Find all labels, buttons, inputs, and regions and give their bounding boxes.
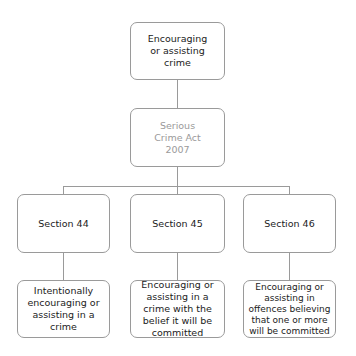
connector-branch-to-section-46 (289, 186, 290, 194)
root-node-label: Encouraging or assisting crime (134, 33, 221, 69)
connector-section-46-to-description (289, 253, 290, 280)
act-node: Serious Crime Act 2007 (130, 108, 225, 167)
section-45-label: Section 45 (152, 218, 202, 230)
root-node: Encouraging or assisting crime (130, 22, 225, 80)
section-46-description-node: Encouraging or assisting in offences bel… (243, 280, 336, 338)
section-45-node: Section 45 (130, 194, 225, 253)
section-44-description: Intentionally encouraging or assisting i… (21, 285, 106, 333)
connector-act-to-branch (177, 167, 178, 186)
connector-section-44-to-description (63, 253, 64, 280)
act-node-label: Serious Crime Act 2007 (134, 120, 221, 156)
section-44-description-node: Intentionally encouraging or assisting i… (17, 280, 110, 338)
connector-branch-to-section-45 (177, 186, 178, 194)
connector-root-to-act (177, 80, 178, 108)
section-46-label: Section 46 (264, 218, 314, 230)
section-46-description: Encouraging or assisting in offences bel… (247, 282, 332, 337)
section-44-node: Section 44 (17, 194, 110, 253)
section-44-label: Section 44 (38, 218, 88, 230)
connector-branch-to-section-44 (63, 186, 64, 194)
section-46-node: Section 46 (243, 194, 336, 253)
connector-section-45-to-description (177, 253, 178, 280)
section-45-description-node: Encouraging or assisting in a crime with… (130, 280, 225, 338)
section-45-description: Encouraging or assisting in a crime with… (134, 279, 221, 339)
